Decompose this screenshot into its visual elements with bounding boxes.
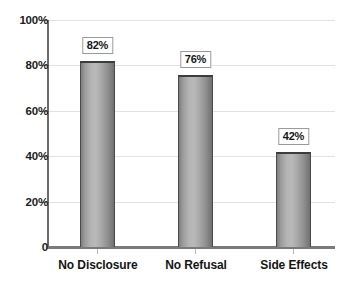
data-label-side-effects: 42%: [278, 128, 309, 145]
data-label-no-disclosure: 82%: [82, 37, 113, 54]
x-tick-mark-no-refusal: [195, 249, 196, 254]
bar-no-refusal: [178, 75, 213, 248]
y-axis-tick-label-60: 60%: [4, 105, 48, 117]
x-axis-label-no-disclosure: No Disclosure: [58, 258, 137, 272]
data-label-no-refusal: 76%: [180, 51, 211, 68]
y-axis-tick-label-40: 40%: [4, 150, 48, 162]
x-axis-label-side-effects: Side Effects: [260, 258, 328, 272]
bar-no-disclosure: [80, 61, 115, 247]
y-axis-tick-label-100: 100%: [4, 14, 48, 26]
gridline-100: [48, 20, 335, 21]
y-axis-tick-label-80: 80%: [4, 59, 48, 71]
x-tick-mark-side-effects: [293, 249, 294, 254]
x-axis-label-no-refusal: No Refusal: [165, 258, 227, 272]
x-tick-mark-no-disclosure: [97, 249, 98, 254]
bar-side-effects: [276, 152, 311, 247]
y-axis-tick-label-0: 0: [4, 241, 48, 253]
y-axis-tick-label-20: 20%: [4, 196, 48, 208]
y-axis-line: [47, 20, 49, 248]
bar-chart: 100% 80% 60% 40% 20% 0 82% 76% 42% No Di…: [0, 0, 344, 286]
